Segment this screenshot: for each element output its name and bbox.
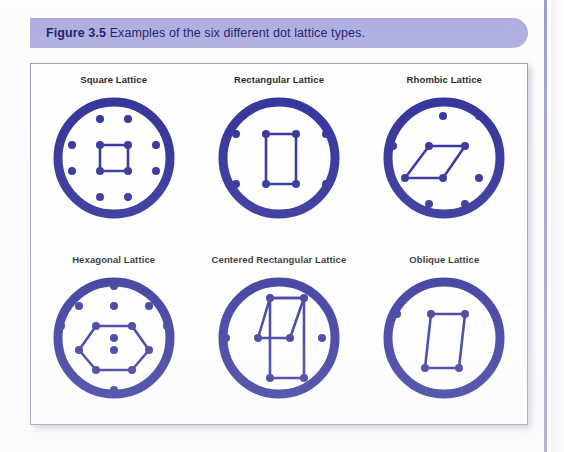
lattice-dot [401,174,409,182]
lattice-dot [110,302,118,310]
figure-caption-banner: Figure 3.5 Examples of the six different… [30,18,528,48]
lattice-dot [439,112,447,120]
lattice-dot [266,374,274,382]
figure-caption-text: Figure 3.5 Examples of the six different… [46,26,365,40]
lattice-dot [152,167,160,175]
lattice-grid: Square LatticeRectangular LatticeRhombic… [31,64,527,424]
lattice-cell-centered-rectangular-lattice: Centered Rectangular Lattice [196,244,361,424]
lattice-cell-oblique-lattice: Oblique Lattice [362,244,527,424]
unit-cell-rectangular-lattice [266,134,296,184]
unit-cell-secondary-centered-rectangular-lattice [258,298,304,338]
lattice-cell-rectangular-lattice: Rectangular Lattice [196,64,361,244]
lattice-dot [461,142,469,150]
lattice-diagram-hexagonal-lattice [39,268,189,408]
unit-cell-rhombic-lattice [405,146,465,178]
lattice-diagram-square-lattice [39,88,189,228]
lattice-dot [96,115,104,123]
lattice-label-rhombic-lattice: Rhombic Lattice [407,74,482,85]
lattice-dot [75,302,83,310]
lattice-label-rectangular-lattice: Rectangular Lattice [234,74,324,85]
lattice-dot [262,180,270,188]
lattice-dot [124,115,132,123]
lattice-dot [145,346,153,354]
lattice-dot [128,322,136,330]
lattice-dot [330,374,338,382]
lattice-dot [92,366,100,374]
lattice-dot [318,334,326,342]
lattice-dot [96,193,104,201]
lattice-ring-oblique-lattice [388,282,500,394]
lattice-label-hexagonal-lattice: Hexagonal Lattice [72,254,155,265]
lattice-dot [292,180,300,188]
lattice-dot [330,294,338,302]
figure-panel: Square LatticeRectangular LatticeRhombic… [30,63,528,425]
lattice-dot [124,141,132,149]
unit-cell-oblique-lattice [425,314,465,368]
lattice-cell-hexagonal-lattice: Hexagonal Lattice [31,244,196,424]
lattice-dot [254,334,262,342]
lattice-dot [110,346,118,354]
lattice-dot [439,174,447,182]
lattice-label-square-lattice: Square Lattice [80,74,147,85]
lattice-label-centered-rectangular-lattice: Centered Rectangular Lattice [212,254,347,265]
lattice-dot [68,141,76,149]
lattice-ring-rectangular-lattice [223,102,335,214]
lattice-dot [425,142,433,150]
lattice-diagram-rhombic-lattice [369,88,519,228]
lattice-diagram-rectangular-lattice [204,88,354,228]
lattice-dot [68,167,76,175]
lattice-dot [92,322,100,330]
lattice-dot [300,294,308,302]
lattice-dot [300,374,308,382]
lattice-dot [266,294,274,302]
lattice-dot [427,310,435,318]
lattice-dot [152,141,160,149]
figure-number: Figure 3.5 [46,26,106,40]
lattice-dot [124,167,132,175]
lattice-diagram-centered-rectangular-lattice [204,268,354,408]
lattice-label-oblique-lattice: Oblique Lattice [409,254,479,265]
lattice-ring-square-lattice [58,102,170,214]
page-margin-rule [544,0,547,452]
lattice-dot [128,366,136,374]
page-edge-gradient [551,0,564,452]
lattice-dot [421,364,429,372]
lattice-dot [110,334,118,342]
lattice-cell-square-lattice: Square Lattice [31,64,196,244]
lattice-cell-rhombic-lattice: Rhombic Lattice [362,64,527,244]
lattice-dot [286,334,294,342]
figure-caption-body: Examples of the six different dot lattic… [110,26,365,40]
unit-cell-square-lattice [100,145,128,171]
lattice-dot [455,364,463,372]
lattice-dot [461,310,469,318]
lattice-diagram-oblique-lattice [369,268,519,408]
lattice-dot [96,141,104,149]
lattice-dot [262,130,270,138]
lattice-dot [292,130,300,138]
lattice-dot [96,167,104,175]
lattice-dot [475,174,483,182]
lattice-dot [124,193,132,201]
lattice-dot [75,346,83,354]
lattice-dot [145,302,153,310]
